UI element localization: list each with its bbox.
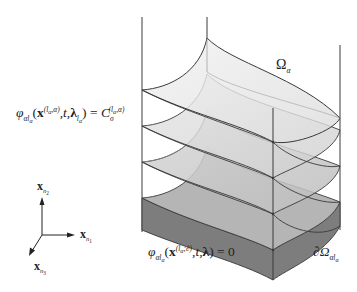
zero-level-equation: φαlα(x(lα;∂),t,λ) = 0 — [148, 245, 235, 260]
axis-label-x-n3: xn3 — [34, 260, 46, 274]
axis-label-x-n1: xn1 — [80, 228, 92, 242]
coordinate-axes — [29, 197, 75, 256]
level-set-equation: φαlα(x(lα,α),t,λlα) = Cσ(lα,α) — [16, 106, 124, 121]
boundary-label: ∂Ωαlα — [313, 245, 339, 260]
axis-label-x-n2: xn2 — [37, 180, 49, 194]
region-label: Ωα — [276, 58, 290, 72]
